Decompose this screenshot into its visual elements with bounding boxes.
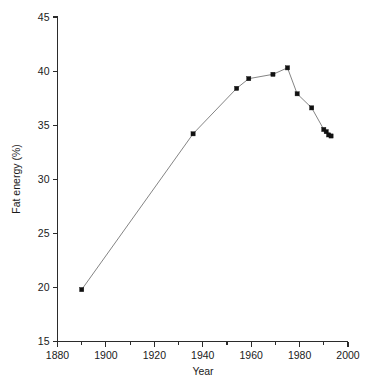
data-point-marker: [310, 106, 314, 110]
chart-canvas: 15202530354045 1880190019201940196019802…: [0, 0, 378, 389]
data-point-marker: [235, 86, 239, 90]
x-axis-group: 1880190019201940196019802000: [46, 342, 360, 362]
series-line-fat-energy: [82, 68, 331, 290]
fat-energy-line-chart: 15202530354045 1880190019201940196019802…: [0, 0, 378, 389]
y-axis-tick-labels: 15202530354045: [38, 11, 50, 348]
data-point-marker: [271, 72, 275, 76]
series-markers-fat-energy: [80, 66, 334, 292]
x-axis-tick-labels: 1880190019201940196019802000: [46, 349, 360, 361]
x-axis-title: Year: [192, 365, 214, 377]
y-tick-label: 35: [38, 119, 50, 131]
x-tick-label: 1900: [94, 349, 118, 361]
data-point-marker: [329, 134, 333, 138]
data-point-marker: [295, 92, 299, 96]
y-tick-label: 30: [38, 173, 50, 185]
data-point-marker: [191, 132, 195, 136]
data-series-group: [80, 66, 334, 292]
x-tick-label: 1940: [191, 349, 215, 361]
y-tick-label: 20: [38, 281, 50, 293]
data-point-marker: [247, 77, 251, 81]
x-tick-label: 1920: [143, 349, 167, 361]
y-axis-ticks: [53, 17, 58, 342]
y-axis-group: 15202530354045: [38, 11, 58, 348]
x-tick-label: 1880: [46, 349, 70, 361]
y-tick-label: 15: [38, 335, 50, 347]
x-axis-ticks: [58, 342, 349, 348]
x-tick-label: 2000: [336, 349, 360, 361]
data-point-marker: [80, 287, 84, 291]
y-tick-label: 25: [38, 227, 50, 239]
y-tick-label: 40: [38, 65, 50, 77]
data-point-marker: [285, 66, 289, 70]
x-tick-label: 1960: [239, 349, 263, 361]
y-axis-title: Fat energy (%): [10, 144, 22, 213]
x-tick-label: 1980: [288, 349, 312, 361]
y-tick-label: 45: [38, 11, 50, 23]
